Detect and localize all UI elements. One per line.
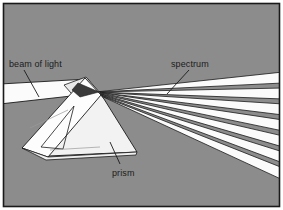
label-spectrum: spectrum	[171, 59, 209, 69]
label-prism: prism	[112, 168, 135, 178]
diagram-canvas: beam of light spectrum prism	[0, 0, 283, 210]
label-beam-of-light: beam of light	[9, 59, 62, 69]
prism-dispersion-figure: beam of light spectrum prism	[0, 0, 283, 210]
